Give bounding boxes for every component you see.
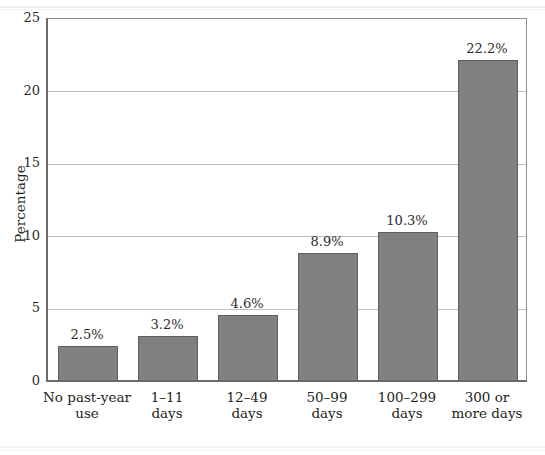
scan-artifact-bottom [0, 446, 545, 448]
bar [218, 315, 278, 382]
y-tick-label-0: 0 [6, 374, 40, 387]
y-tick-label-10: 10 [6, 229, 40, 242]
bar-value-label: 3.2% [127, 318, 207, 331]
x-axis-line [46, 380, 527, 382]
category-label: 300 or more days [435, 390, 539, 422]
bar [138, 336, 198, 382]
bar-value-label: 4.6% [207, 297, 287, 310]
bar [378, 232, 438, 382]
bar-value-label: 2.5% [47, 328, 127, 341]
gridline-5 [48, 309, 526, 310]
scan-artifact-bottom-secondary [0, 450, 545, 451]
y-tick-label-5: 5 [6, 301, 40, 314]
bar-chart-figure: Percentage 0510152025 2.5%3.2%4.6%8.9%10… [0, 0, 545, 455]
y-tick-label-20: 20 [6, 84, 40, 97]
scan-artifact-top [0, 6, 545, 8]
bar [458, 60, 518, 382]
gridline-15 [48, 164, 526, 165]
bar [58, 346, 118, 382]
gridline-20 [48, 91, 526, 92]
bar-value-label: 10.3% [367, 214, 447, 227]
plot-area [47, 18, 527, 381]
bar-value-label: 22.2% [447, 42, 527, 55]
bar [298, 253, 358, 382]
y-tick-label-15: 15 [6, 156, 40, 169]
bar-value-label: 8.9% [287, 235, 367, 248]
scan-artifact-top-secondary [0, 9, 545, 10]
y-tick-label-25: 25 [6, 11, 40, 24]
